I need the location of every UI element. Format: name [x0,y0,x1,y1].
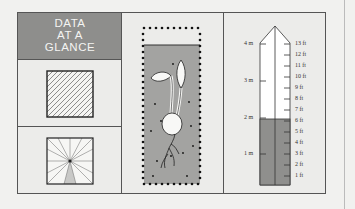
imperial-label-8ft: 8 ft [295,95,303,101]
imperial-label-5ft: 5 ft [295,128,303,134]
seedling-in-soil-icon [141,26,203,186]
title-line-1: DATA [18,17,122,29]
column-divider-2 [223,13,224,193]
metric-label-4m: 4 m [244,40,253,46]
imperial-label-7ft: 7 ft [295,106,303,112]
title-line-3: GLANCE [18,41,122,53]
imperial-label-11ft: 11 ft [295,62,306,68]
title-divider [18,59,122,60]
height-ruler-icon [240,23,300,188]
imperial-label-4ft: 4 ft [295,139,303,145]
sunburst-square-icon [46,137,94,185]
metric-label-3m: 3 m [244,77,253,83]
metric-label-1m: 1 m [244,150,253,156]
hatched-square-icon [46,70,94,118]
imperial-label-9ft: 9 ft [295,84,303,90]
column-divider-1 [121,13,122,193]
panel-title: DATA AT A GLANCE [18,13,122,59]
row-divider [18,126,122,127]
data-at-a-glance-panel: DATA AT A GLANCE [17,12,326,194]
page-edge-line [344,0,345,209]
imperial-label-13ft: 13 ft [295,40,306,46]
imperial-label-2ft: 2 ft [295,161,303,167]
title-line-2: AT A [18,29,122,41]
imperial-label-1ft: 1 ft [295,172,303,178]
imperial-label-6ft: 6 ft [295,117,303,123]
imperial-label-12ft: 12 ft [295,51,306,57]
imperial-label-10ft: 10 ft [295,73,306,79]
imperial-label-3ft: 3 ft [295,150,303,156]
metric-label-2m: 2 m [244,114,253,120]
